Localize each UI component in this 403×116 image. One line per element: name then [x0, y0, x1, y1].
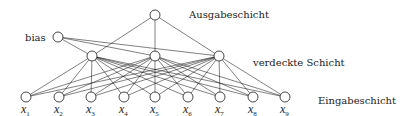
input-neuron-9 — [280, 92, 290, 102]
bias-neuron — [53, 32, 63, 42]
edge-bias-hidden — [58, 37, 219, 56]
input-neuron-8 — [248, 92, 258, 102]
output-neuron — [150, 10, 160, 20]
edge-input-hidden — [26, 56, 155, 97]
input-variable-label: x7 — [214, 102, 224, 116]
input-variable-label: x2 — [53, 102, 63, 116]
input-labels: x1x2x3x4x5x6x7x8x9 — [20, 102, 289, 116]
input-variable-label: x1 — [20, 102, 30, 116]
input-neuron-7 — [215, 92, 225, 102]
input-layer-label: Eingabeschicht — [318, 95, 396, 106]
bias-label: bias — [25, 32, 46, 43]
input-variable-label: x9 — [279, 102, 289, 116]
hidden-neuron-2 — [150, 51, 160, 61]
input-variable-label: x3 — [85, 102, 95, 116]
edge-input-hidden — [92, 56, 220, 97]
input-neuron-6 — [183, 92, 193, 102]
input-neuron-1 — [21, 92, 31, 102]
input-variable-label: x8 — [247, 102, 257, 116]
input-neuron-2 — [54, 92, 64, 102]
edge-input-hidden — [92, 56, 124, 97]
edge-input-hidden — [219, 56, 253, 97]
input-neuron-5 — [150, 92, 160, 102]
input-variable-label: x4 — [118, 102, 128, 116]
neurons — [21, 10, 290, 102]
input-variable-label: x6 — [182, 102, 192, 116]
input-variable-label: x5 — [149, 102, 159, 116]
edge-input-hidden — [59, 56, 219, 97]
hidden-neuron-1 — [87, 51, 97, 61]
input-neuron-4 — [119, 92, 129, 102]
hidden-layer-label: verdeckte Schicht — [252, 57, 345, 68]
edge-input-hidden — [59, 56, 92, 97]
edge-input-hidden — [155, 56, 253, 97]
hidden-neuron-3 — [214, 51, 224, 61]
input-neuron-3 — [86, 92, 96, 102]
neural-network-diagram: x1x2x3x4x5x6x7x8x9 Ausgabeschicht bias v… — [0, 0, 403, 116]
edge-bias-hidden — [58, 37, 92, 56]
output-layer-label: Ausgabeschicht — [188, 9, 269, 20]
